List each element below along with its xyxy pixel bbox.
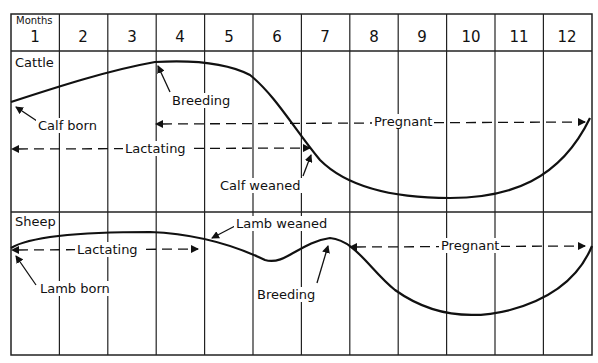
month-2: 2 <box>59 28 107 46</box>
cattle-section-title: Cattle <box>15 55 54 70</box>
calf-weaned-arrow <box>303 155 311 176</box>
sheep-breeding-label: Breeding <box>255 287 317 302</box>
month-4: 4 <box>156 28 204 46</box>
calf-born-label: Calf born <box>36 118 99 133</box>
calf-born-arrow <box>16 107 37 121</box>
lamb-weaned-label: Lamb weaned <box>234 216 329 231</box>
month-11: 11 <box>495 28 543 46</box>
month-10: 10 <box>447 28 495 46</box>
month-3: 3 <box>108 28 156 46</box>
cattle-breeding-arrow <box>158 66 170 92</box>
cattle-breeding-label: Breeding <box>170 93 232 108</box>
lamb-born-label: Lamb born <box>38 281 112 296</box>
sheep-pregnant-label: Pregnant <box>439 238 501 253</box>
sheep-breeding-arrow <box>317 246 328 283</box>
month-5: 5 <box>205 28 253 46</box>
sheep-lactating-label: Lactating <box>75 242 140 257</box>
cattle-lactating-label: Lactating <box>123 141 188 156</box>
sheep-section-title: Sheep <box>15 214 56 229</box>
months-label: Months <box>16 15 53 26</box>
month-7: 7 <box>301 28 349 46</box>
month-12: 12 <box>543 28 591 46</box>
lamb-born-arrow <box>16 256 36 285</box>
month-9: 9 <box>398 28 446 46</box>
month-1: 1 <box>11 28 59 46</box>
calf-weaned-label: Calf weaned <box>218 178 302 193</box>
month-8: 8 <box>350 28 398 46</box>
month-6: 6 <box>253 28 301 46</box>
lamb-weaned-arrow <box>212 226 235 238</box>
cattle-pregnant-label: Pregnant <box>372 114 434 129</box>
